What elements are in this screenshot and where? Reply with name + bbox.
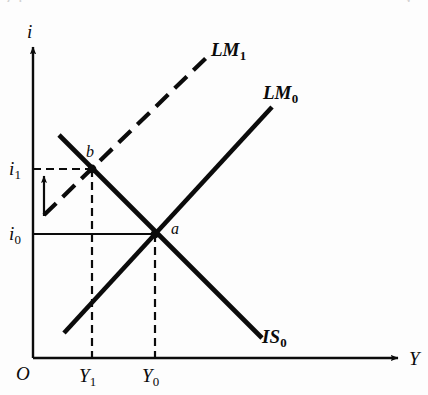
- curve-label-IS0-base: IS: [262, 326, 280, 347]
- curve-label-IS0: IS0: [262, 327, 286, 346]
- point-label-a: a: [171, 221, 179, 237]
- curve-label-LM0-sub: 0: [292, 91, 298, 106]
- is-lm-figure: ( ) i: [0, 0, 428, 395]
- origin-label: O: [16, 364, 30, 383]
- curve-LM0: [64, 107, 272, 333]
- tick-label-Y1-sub: 1: [90, 374, 96, 389]
- axis-group: [33, 47, 398, 358]
- tick-label-Y0-base: Y: [142, 365, 153, 386]
- tick-label-i0-base: i: [9, 223, 14, 244]
- x-axis-label: Y: [409, 349, 420, 368]
- curve-label-IS0-sub: 0: [280, 335, 286, 350]
- tick-label-i1-sub: 1: [15, 167, 21, 182]
- tick-label-Y0-sub: 0: [153, 374, 159, 389]
- point-label-b: b: [86, 144, 94, 160]
- tick-label-i1: i1: [9, 159, 21, 178]
- y-axis-label: i: [27, 22, 32, 41]
- tick-label-i1-base: i: [9, 158, 14, 179]
- curve-label-LM0-base: LM: [263, 82, 292, 103]
- curve-LM1: [44, 57, 207, 215]
- guide-lines: [33, 169, 155, 364]
- tick-label-Y1: Y1: [79, 366, 96, 385]
- tick-label-i0-sub: 0: [15, 232, 21, 247]
- tick-label-Y1-base: Y: [79, 365, 90, 386]
- curve-group: [44, 57, 272, 338]
- curve-label-LM1: LM1: [211, 40, 246, 59]
- curve-label-LM1-sub: 1: [240, 48, 246, 63]
- tick-label-Y0: Y0: [142, 366, 159, 385]
- tick-label-i0: i0: [9, 224, 21, 243]
- curve-label-LM1-base: LM: [211, 39, 240, 60]
- point-marker-a: [151, 230, 160, 239]
- point-marker-b: [88, 165, 97, 174]
- curve-label-LM0: LM0: [263, 83, 298, 102]
